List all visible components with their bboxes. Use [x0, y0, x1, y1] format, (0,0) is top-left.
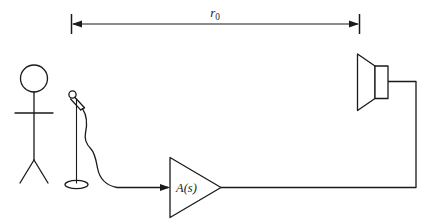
- listener-head: [21, 65, 48, 92]
- mic-body-edge-lower: [71, 99, 81, 110]
- microphone-on-stand: [65, 91, 88, 189]
- amplifier-label-args: (s): [184, 181, 197, 195]
- speaker-magnet-body: [375, 66, 388, 99]
- listener-leg-right: [34, 160, 48, 183]
- dimension-left-arrowhead: [72, 21, 82, 28]
- cable-path: [83, 109, 168, 188]
- amplifier-label-base: A: [175, 181, 184, 195]
- dimension-label-subscript: 0: [215, 12, 220, 22]
- cable-input-arrowhead: [160, 184, 170, 191]
- microphone-cable: [83, 109, 170, 191]
- figure-canvas: r0 A(s): [0, 0, 436, 223]
- dimension-right-arrowhead: [349, 21, 359, 28]
- amplifier-label: A(s): [175, 181, 197, 195]
- loudspeaker: [358, 54, 389, 111]
- stick-figure-listener: [15, 65, 53, 183]
- listener-leg-left: [20, 160, 34, 183]
- dimension-label: r0: [210, 5, 220, 22]
- speaker-cone: [358, 54, 376, 111]
- diagram-svg: r0 A(s): [0, 0, 436, 223]
